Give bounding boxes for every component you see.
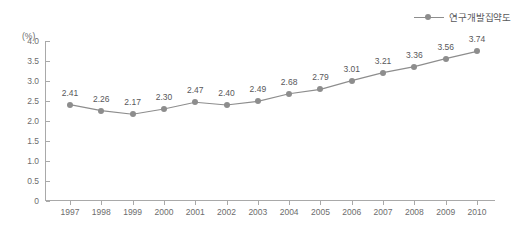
plot-area: 4.03.53.02.52.01.51.00.50 19971998199920…	[45, 41, 495, 201]
data-point-label: 3.36	[406, 50, 423, 60]
x-axis-tick	[477, 201, 478, 205]
data-point-label: 3.74	[469, 34, 486, 44]
legend-label: 연구개발집약도	[449, 10, 511, 24]
y-axis-tick-label: 4.0	[27, 36, 39, 46]
y-axis-tick-label: 2.5	[27, 96, 39, 106]
x-axis-tick	[133, 201, 134, 205]
x-axis-tick	[289, 201, 290, 205]
data-point-label: 3.01	[343, 64, 360, 74]
y-axis-tick-label: 1.0	[27, 156, 39, 166]
data-point	[130, 111, 136, 117]
y-axis-tick-label: 0.5	[27, 176, 39, 186]
series-line	[45, 41, 495, 201]
x-axis-tick	[414, 201, 415, 205]
data-point	[380, 70, 386, 76]
data-point-label: 2.79	[312, 72, 329, 82]
data-point-label: 2.40	[218, 88, 235, 98]
y-axis-tick-label: 3.0	[27, 76, 39, 86]
x-axis-tick	[227, 201, 228, 205]
x-axis-tick	[164, 201, 165, 205]
x-axis-tick	[101, 201, 102, 205]
x-axis-tick	[446, 201, 447, 205]
x-axis-tick-label: 2003	[248, 207, 267, 217]
data-point-label: 2.17	[124, 97, 141, 107]
data-point-label: 2.26	[93, 94, 110, 104]
data-point	[286, 91, 292, 97]
y-axis-tick-label: 1.5	[27, 136, 39, 146]
x-axis-tick-label: 2005	[311, 207, 330, 217]
x-axis-tick-label: 1998	[92, 207, 111, 217]
x-axis-tick	[258, 201, 259, 205]
data-point-label: 2.30	[156, 92, 173, 102]
data-point-label: 2.41	[62, 88, 79, 98]
x-axis-tick-label: 2009	[436, 207, 455, 217]
y-axis-tick-label: 0	[34, 196, 39, 206]
x-axis-tick-label: 2000	[154, 207, 173, 217]
x-axis-tick-label: 2004	[280, 207, 299, 217]
data-point-label: 2.47	[187, 85, 204, 95]
rnd-intensity-line-chart: 연구개발집약도 (%) 4.03.53.02.52.01.51.00.50 19…	[0, 0, 525, 238]
x-axis-tick-label: 1999	[123, 207, 142, 217]
y-axis-tick-label: 3.5	[27, 56, 39, 66]
data-point	[443, 56, 449, 62]
y-axis-tick	[46, 201, 50, 202]
x-axis-tick-label: 2008	[405, 207, 424, 217]
line-dot-marker-icon	[414, 13, 444, 22]
x-axis-tick-label: 2001	[186, 207, 205, 217]
x-axis-tick-label: 2002	[217, 207, 236, 217]
x-axis-tick	[320, 201, 321, 205]
data-point-label: 2.68	[281, 77, 298, 87]
data-point	[349, 78, 355, 84]
y-axis-tick-label: 2.0	[27, 116, 39, 126]
x-axis-tick-label: 2006	[342, 207, 361, 217]
data-point	[161, 106, 167, 112]
x-axis-tick	[70, 201, 71, 205]
x-axis-tick	[195, 201, 196, 205]
data-point	[411, 64, 417, 70]
x-axis-tick-label: 2010	[468, 207, 487, 217]
x-axis-tick-label: 2007	[374, 207, 393, 217]
x-axis-tick	[352, 201, 353, 205]
data-point	[224, 102, 230, 108]
chart-legend: 연구개발집약도	[414, 10, 511, 24]
data-point	[67, 102, 73, 108]
x-axis-tick	[383, 201, 384, 205]
data-point-label: 2.49	[250, 84, 267, 94]
x-axis-tick-label: 1997	[61, 207, 80, 217]
data-point-label: 3.21	[375, 56, 392, 66]
data-point	[98, 108, 104, 114]
data-point-label: 3.56	[437, 42, 454, 52]
